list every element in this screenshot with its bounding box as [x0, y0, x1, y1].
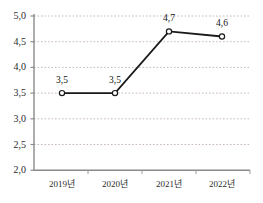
x-tick-label-2020: 2020년 — [92, 180, 138, 189]
data-line-series-1 — [62, 31, 222, 93]
data-label-2021: 4,7 — [155, 14, 183, 24]
y-tick-label-3-0: 3,0 — [2, 114, 26, 124]
y-tick-label-3-5: 3,5 — [2, 88, 26, 98]
chart-plot-area — [0, 0, 263, 203]
data-label-2019: 3,5 — [48, 76, 76, 86]
x-tick-label-2022: 2022년 — [199, 180, 245, 189]
data-point-2022 — [219, 34, 224, 39]
x-tick-label-2019: 2019년 — [39, 180, 85, 189]
y-tick-label-4-0: 4,0 — [2, 62, 26, 72]
y-tick-label-5-0: 5,0 — [2, 11, 26, 21]
y-tick-label-2-5: 2,5 — [2, 140, 26, 150]
data-point-2020 — [112, 91, 117, 96]
data-point-2021 — [166, 29, 171, 34]
data-label-2020: 3,5 — [101, 76, 129, 86]
y-tick-label-4-5: 4,5 — [2, 37, 26, 47]
y-tick-label-2-0: 2,0 — [2, 165, 26, 175]
data-point-2019 — [59, 91, 64, 96]
x-tick-label-2021: 2021년 — [146, 180, 192, 189]
line-chart: 5,0 4,5 4,0 3,5 3,0 2,5 2,0 2019년 2020년 … — [0, 0, 263, 203]
data-label-2022: 4,6 — [208, 19, 236, 29]
